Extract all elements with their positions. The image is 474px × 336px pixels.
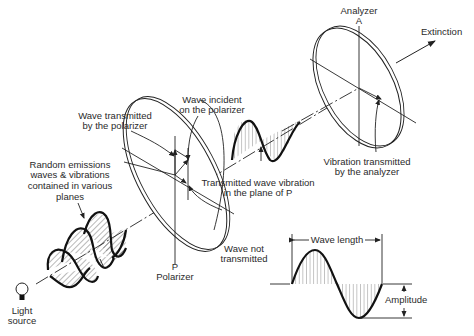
label-random-2: waves & vibrations	[29, 169, 109, 180]
label-random-3: contained in various	[28, 180, 113, 191]
polarization-diagram: Analyzer A Extinction Wave incident on t…	[0, 0, 474, 336]
label-amplitude: Amplitude	[385, 294, 427, 305]
random-waves	[48, 212, 127, 287]
label-polarizer: Polarizer	[156, 271, 194, 282]
leader-random	[78, 203, 84, 218]
wavelength-inset	[270, 234, 412, 318]
light-source-icon	[16, 283, 28, 300]
label-transmitted-plane-2: in the plane of P	[224, 187, 293, 198]
label-vibration-analyzer-2: by the analyzer	[335, 166, 399, 177]
label-wave-length: Wave length	[311, 234, 363, 245]
label-random-4: planes	[56, 191, 84, 202]
label-wave-transmitted-2: by the polarizer	[83, 120, 148, 131]
extinction-arrow	[396, 41, 435, 63]
label-wave-incident-2: on the polarizer	[179, 104, 244, 115]
label-analyzer-letter: A	[356, 15, 363, 26]
label-light-2: source	[8, 315, 37, 326]
label-wave-not-2: transmitted	[221, 253, 268, 264]
label-extinction: Extinction	[421, 26, 462, 37]
analyzer-disc	[282, 12, 422, 163]
